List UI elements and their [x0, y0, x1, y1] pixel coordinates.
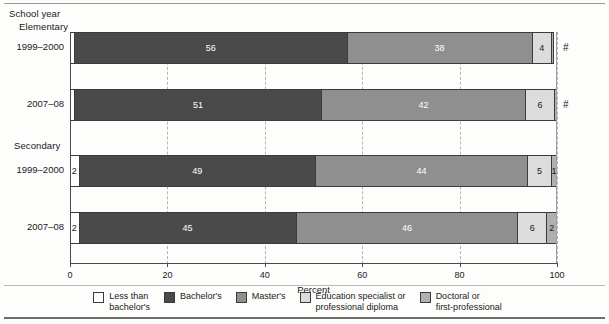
legend-swatch-doctoral	[420, 292, 431, 303]
bar-segment-value: 49	[192, 167, 202, 176]
chart-legend: Less than bachelor'sBachelor'sMaster'sEd…	[4, 285, 605, 317]
bar-segment-value: 46	[402, 224, 412, 233]
x-tick	[362, 263, 363, 267]
top-rule	[4, 3, 605, 4]
x-tick	[460, 263, 461, 267]
bar-segment-value: 51	[193, 101, 203, 110]
bar-segment-value: 45	[183, 224, 193, 233]
school-year-axis-title: School year	[9, 8, 60, 19]
bar-row[interactable]: 2007–0851426#	[70, 89, 557, 121]
chart-figure: School year Elementary Secondary 1999–20…	[0, 0, 609, 324]
legend-label-less-than-bachelors: Less than bachelor's	[109, 291, 150, 312]
bar-row[interactable]: 1999–20002494451	[70, 155, 557, 187]
bar-segment[interactable]: 49	[80, 155, 316, 187]
x-tick-label: 40	[260, 270, 270, 280]
bar-segment[interactable]: 4	[533, 32, 552, 64]
legend-swatch-bachelors	[164, 292, 175, 303]
bar-segment-value: 44	[416, 167, 426, 176]
legend-label-doctoral: Doctoral or first-professional	[436, 291, 502, 312]
bar-row-label: 2007–08	[27, 98, 64, 109]
bar-row-label: 2007–08	[27, 221, 64, 232]
bar-segment[interactable]: 56	[75, 32, 348, 64]
bar-segment-value: 2	[72, 224, 77, 233]
bar-segment[interactable]: 46	[297, 212, 519, 244]
x-tick	[265, 263, 266, 267]
bar-row-label: 1999–2000	[16, 164, 64, 175]
legend-item-less-than-bachelors[interactable]: Less than bachelor's	[93, 291, 150, 312]
bar-segment[interactable]: 2	[70, 155, 80, 187]
legend-label-bachelors: Bachelor's	[180, 291, 222, 302]
bar-segment[interactable]: 5	[528, 155, 552, 187]
legend-swatch-masters	[236, 292, 247, 303]
legend-item-doctoral[interactable]: Doctoral or first-professional	[420, 291, 502, 312]
x-tick-label: 60	[357, 270, 367, 280]
bottom-rule	[4, 317, 605, 319]
bar-segment-value: 42	[419, 101, 429, 110]
y-axis-line	[70, 32, 71, 264]
x-tick-label: 20	[162, 270, 172, 280]
bar-segment-value: 56	[206, 44, 216, 53]
plot-area: 1999–200056384#2007–0851426#1999–2000249…	[70, 32, 557, 264]
bar-segment[interactable]: 42	[322, 89, 526, 121]
bar-segment-value: 2	[72, 167, 77, 176]
x-tick	[557, 263, 558, 267]
bar-segment[interactable]: 6	[526, 89, 555, 121]
bar-segment-value: 4	[539, 44, 544, 53]
x-tick	[70, 263, 71, 267]
legend-label-education-specialist: Education specialist or professional dip…	[316, 291, 406, 312]
gridline	[557, 32, 558, 264]
bar-segment[interactable]: 38	[348, 32, 533, 64]
bar-segment-value: 6	[530, 224, 535, 233]
bar-row-footnote-symbol: #	[563, 99, 569, 110]
plot-right-border	[556, 32, 557, 264]
bar-segment-value: 2	[549, 224, 554, 233]
bar-segment-value: 38	[435, 44, 445, 53]
legend-item-bachelors[interactable]: Bachelor's	[164, 291, 222, 303]
legend-swatch-education-specialist	[300, 292, 311, 303]
bar-segment[interactable]: 45	[80, 212, 297, 244]
bar-row[interactable]: 2007–082454662	[70, 212, 557, 244]
x-axis-line	[70, 263, 557, 264]
bar-segment[interactable]: 6	[518, 212, 547, 244]
legend-swatch-less-than-bachelors	[93, 292, 104, 303]
legend-item-masters[interactable]: Master's	[236, 291, 286, 303]
x-tick-label: 100	[549, 270, 564, 280]
bar-segment-value: 6	[538, 101, 543, 110]
bar-row-label: 1999–2000	[16, 41, 64, 52]
legend-label-masters: Master's	[252, 291, 286, 302]
group-label-secondary: Secondary	[14, 140, 60, 151]
bar-segment[interactable]: 2	[70, 212, 80, 244]
bar-segment-value: 5	[537, 167, 542, 176]
group-label-elementary: Elementary	[19, 21, 68, 32]
x-tick-label: 0	[67, 270, 72, 280]
bar-segment[interactable]: 44	[316, 155, 528, 187]
x-tick-label: 80	[455, 270, 465, 280]
bar-segment[interactable]	[552, 32, 554, 64]
x-tick	[167, 263, 168, 267]
bar-row[interactable]: 1999–200056384#	[70, 32, 557, 64]
legend-item-education-specialist[interactable]: Education specialist or professional dip…	[300, 291, 406, 312]
bar-row-footnote-symbol: #	[563, 42, 569, 53]
bar-segment[interactable]: 51	[75, 89, 322, 121]
